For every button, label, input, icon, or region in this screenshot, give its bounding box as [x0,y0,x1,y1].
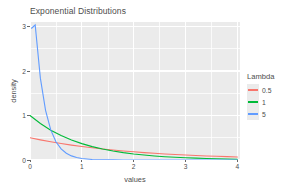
y-tick-label: 3 [22,23,26,30]
legend-entry-0.5[interactable]: 0.5 [247,84,274,96]
legend-entries: 0.515 [247,84,274,120]
y-tick-mark [27,71,29,72]
series-line-lambda-5 [32,25,238,160]
legend-entry-5[interactable]: 5 [247,108,274,120]
legend-key-line [248,101,258,102]
x-tick-mark [30,160,31,162]
legend-key-line [248,89,258,90]
legend-key-line [248,113,258,114]
y-axis-title: density [9,79,18,102]
x-tick-mark [133,160,134,162]
legend-key-swatch [247,96,259,108]
x-tick-label: 1 [80,163,84,170]
series-line-lambda-1 [30,115,237,159]
x-tick-label: 4 [236,163,240,170]
x-tick-label: 2 [132,163,136,170]
y-tick-mark [27,115,29,116]
legend: Lambda 0.515 [247,72,274,120]
x-tick-mark [237,160,238,162]
y-tick-mark [27,26,29,27]
legend-entry-label: 0.5 [262,87,271,94]
legend-title: Lambda [247,72,274,81]
legend-entry-label: 5 [262,111,266,118]
series-lines [30,22,240,160]
y-tick-label: 2 [22,67,26,74]
x-tick-mark [185,160,186,162]
x-axis-title: values [30,175,240,184]
legend-key-swatch [247,84,259,96]
x-tick-label: 3 [184,163,188,170]
chart-title: Exponential Distributions [30,6,126,16]
legend-entry-label: 1 [262,99,266,106]
y-tick-label: 0 [22,157,26,164]
y-tick-label: 1 [22,112,26,119]
plot-panel [30,22,240,160]
x-tick-mark [81,160,82,162]
x-tick-label: 0 [28,163,32,170]
legend-entry-1[interactable]: 1 [247,96,274,108]
legend-key-swatch [247,108,259,120]
exponential-distributions-chart: Exponential Distributions 0123 01234 val… [0,0,291,191]
